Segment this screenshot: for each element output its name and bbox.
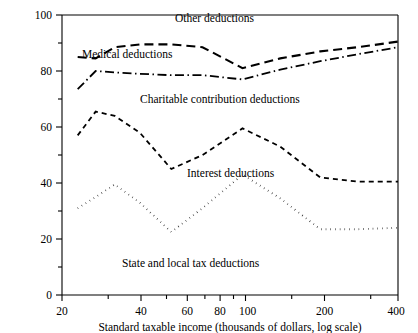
y-axis-tick-labels: 0 20 40 60 80 100 bbox=[35, 9, 53, 301]
x-tick-label-400: 400 bbox=[387, 305, 405, 317]
series-label-interest-deductions: Interest deductions bbox=[187, 167, 275, 179]
series-line-state-and-local-tax-deductions bbox=[78, 175, 398, 232]
y-axis-ticks bbox=[56, 15, 62, 295]
series-label-medical-deductions: Medical deductions bbox=[82, 48, 173, 60]
series-label-other-deductions: Other deductions bbox=[175, 12, 254, 24]
series-label-charitable-contribution-deductions: Charitable contribution deductions bbox=[140, 93, 300, 105]
y-tick-label-80: 80 bbox=[41, 65, 53, 77]
y-tick-label-100: 100 bbox=[35, 9, 53, 21]
x-axis-ticks bbox=[62, 295, 398, 301]
x-tick-label-60: 60 bbox=[182, 305, 194, 317]
data-series-group bbox=[78, 42, 398, 232]
series-label-state-and-local-tax-deductions: State and local tax deductions bbox=[122, 257, 260, 269]
x-axis-tick-labels: 20 40 60 80 100 200 400 bbox=[56, 305, 405, 317]
y-tick-label-40: 40 bbox=[41, 177, 53, 189]
x-tick-label-200: 200 bbox=[316, 305, 334, 317]
x-tick-label-100: 100 bbox=[239, 305, 257, 317]
y-tick-label-60: 60 bbox=[41, 121, 53, 133]
x-tick-label-20: 20 bbox=[56, 305, 68, 317]
chart-container: 0 20 40 60 80 100 20 40 60 bbox=[0, 0, 418, 333]
x-tick-label-40: 40 bbox=[135, 305, 147, 317]
y-tick-label-20: 20 bbox=[41, 233, 53, 245]
deductions-line-chart: 0 20 40 60 80 100 20 40 60 bbox=[0, 0, 418, 333]
y-tick-label-0: 0 bbox=[46, 289, 52, 301]
x-axis-title: Standard taxable income (thousands of do… bbox=[98, 321, 361, 333]
x-tick-label-80: 80 bbox=[214, 305, 226, 317]
